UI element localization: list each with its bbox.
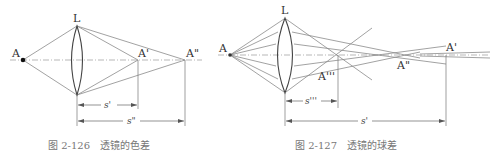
- incident-ray-5: [230, 55, 278, 79]
- intermediate-ray-top: [292, 32, 420, 58]
- figure-caption-2-126: 图 2-126 透镜的色差: [48, 139, 150, 151]
- incident-ray-bottom: [23, 60, 77, 95]
- refracted-ray-bottom-a1: [77, 60, 138, 95]
- label-image-a3: A''': [317, 70, 335, 83]
- dimension-label-s-prime: s': [104, 100, 111, 110]
- label-image-a1: A': [445, 41, 457, 54]
- convex-lens: [72, 26, 83, 95]
- dimension-label-s-triple-prime: s''': [305, 96, 317, 106]
- object-point: [228, 53, 232, 57]
- refracted-ray-top-a2: [77, 26, 185, 60]
- label-object-a: A: [218, 42, 228, 55]
- label-image-a1: A': [137, 47, 149, 60]
- convex-lens: [278, 18, 293, 93]
- incident-ray-1: [230, 19, 284, 55]
- figure-chromatic-aberration: A L A' A" s' s" 图 2-126 透镜的色差: [10, 12, 202, 151]
- object-point: [21, 58, 26, 63]
- label-image-a2: A": [185, 47, 199, 60]
- label-object-a: A: [11, 47, 21, 60]
- dimension-label-s-double-prime: s": [127, 116, 136, 126]
- incident-ray-6: [230, 55, 284, 92]
- incident-ray-2: [230, 32, 278, 55]
- incident-ray-3: [230, 44, 276, 55]
- incident-ray-top: [23, 26, 77, 60]
- refracted-ray-top-a1: [77, 26, 138, 60]
- incident-ray-4: [230, 55, 276, 66]
- emergent-ray-2: [420, 56, 490, 58]
- lens-aberration-diagrams: A L A' A" s' s" 图 2-126 透镜的色差: [0, 0, 497, 158]
- label-lens-l: L: [73, 12, 81, 25]
- label-lens-l: L: [281, 4, 289, 17]
- refracted-ray-bottom-a2: [77, 60, 185, 95]
- figure-spherical-aberration: A L A''' A" A' s''' s' 图 2-127 透镜的球差: [218, 4, 490, 151]
- label-image-a2: A": [396, 59, 410, 72]
- figure-caption-2-127: 图 2-127 透镜的球差: [295, 139, 397, 151]
- dimension-label-s-prime: s': [361, 116, 368, 126]
